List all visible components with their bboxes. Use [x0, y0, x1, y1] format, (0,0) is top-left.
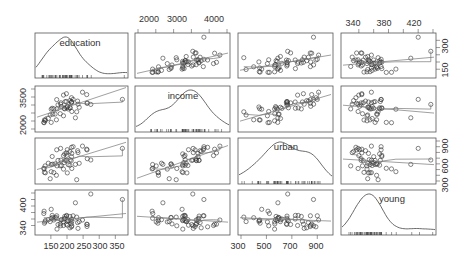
data-point: [180, 207, 184, 211]
bottom-tick-education-300: 300: [92, 241, 107, 251]
data-point: [75, 110, 79, 114]
data-point: [296, 93, 300, 97]
data-point: [80, 90, 84, 94]
panel-education-vs-young: [341, 33, 436, 78]
data-point: [384, 166, 388, 170]
data-point: [89, 192, 93, 196]
data-point: [206, 225, 210, 229]
right-tick-urban-900: 900: [440, 138, 450, 153]
data-point: [384, 120, 388, 124]
data-point: [293, 67, 297, 71]
data-point: [242, 56, 246, 60]
data-point: [389, 121, 393, 125]
data-point: [76, 226, 80, 230]
data-point: [54, 173, 58, 177]
top-tick-income-3000: 3000: [167, 14, 187, 24]
data-point: [213, 51, 217, 55]
data-point: [273, 70, 277, 74]
bottom-tick-education-200: 200: [59, 241, 74, 251]
data-point: [54, 118, 58, 122]
data-point: [58, 112, 62, 116]
data-point: [184, 54, 188, 58]
data-point: [301, 222, 305, 226]
data-point: [362, 170, 366, 174]
data-point: [315, 214, 319, 218]
panel-young-vs-education: [35, 190, 128, 235]
data-point: [350, 55, 354, 59]
data-point: [355, 51, 359, 55]
data-point: [55, 98, 59, 102]
panel-frame: [341, 33, 436, 78]
data-point: [308, 65, 312, 69]
data-point: [191, 192, 195, 196]
data-point: [55, 227, 59, 231]
data-point: [376, 178, 380, 182]
panel-education-vs-income: [135, 33, 230, 78]
bottom-tick-urban-900: 900: [308, 241, 323, 251]
panel-income-vs-education: [35, 86, 128, 132]
data-point: [369, 90, 373, 94]
top-tick-young-420: 420: [406, 18, 421, 28]
bottom-tick-urban-300: 300: [230, 241, 245, 251]
data-point: [273, 227, 277, 231]
data-point: [416, 97, 420, 101]
panel-frame: [135, 190, 230, 235]
data-point: [311, 197, 315, 201]
var-label-income: income: [168, 90, 199, 101]
data-point: [409, 116, 413, 120]
data-point: [49, 107, 53, 111]
data-point: [394, 67, 398, 71]
data-point: [365, 119, 369, 123]
top-tick-income-4000: 4000: [204, 14, 224, 24]
data-point: [278, 116, 282, 120]
panel-urban-vs-income: [135, 138, 230, 184]
data-point: [369, 144, 373, 148]
diagonal-labels: education income urban young: [59, 37, 405, 204]
data-point: [89, 158, 93, 162]
data-point: [50, 154, 54, 158]
data-point: [73, 201, 77, 205]
right-tick-education-150: 150: [440, 62, 450, 77]
data-point: [349, 64, 353, 68]
data-point: [244, 220, 248, 224]
data-point: [80, 218, 84, 222]
data-point: [151, 211, 155, 215]
data-point: [167, 177, 171, 181]
data-point: [85, 93, 89, 97]
data-point: [73, 116, 77, 120]
panels: [31, 29, 440, 239]
data-point: [202, 197, 206, 201]
bottom-tick-education-250: 250: [76, 241, 91, 251]
panel-education-vs-urban: [238, 33, 333, 78]
panel-income-vs-young: [341, 86, 436, 132]
data-point: [362, 118, 366, 122]
bottom-tick-urban-500: 500: [256, 241, 271, 251]
data-point: [384, 70, 388, 74]
data-point: [52, 171, 56, 175]
data-point: [389, 167, 393, 171]
data-point: [394, 170, 398, 174]
var-label-young: young: [379, 193, 405, 204]
var-label-education: education: [59, 37, 100, 48]
panel-young-vs-income: [135, 190, 230, 235]
data-point: [265, 220, 269, 224]
data-point: [267, 224, 271, 228]
data-point: [201, 65, 205, 69]
smooth-fit-line: [244, 92, 319, 115]
data-point: [360, 112, 364, 116]
data-point: [59, 146, 63, 150]
panel-young-vs-urban: [238, 190, 333, 235]
panel-income-vs-urban: [238, 86, 333, 132]
data-point: [356, 166, 360, 170]
panel-frame: [341, 138, 436, 184]
data-point: [181, 227, 185, 231]
data-point: [309, 60, 313, 64]
data-point: [202, 35, 206, 39]
data-point: [161, 201, 165, 205]
data-point: [257, 60, 261, 64]
data-point: [356, 109, 360, 113]
data-point: [48, 177, 52, 181]
data-point: [276, 201, 280, 205]
data-point: [349, 164, 353, 168]
data-point: [175, 224, 179, 228]
